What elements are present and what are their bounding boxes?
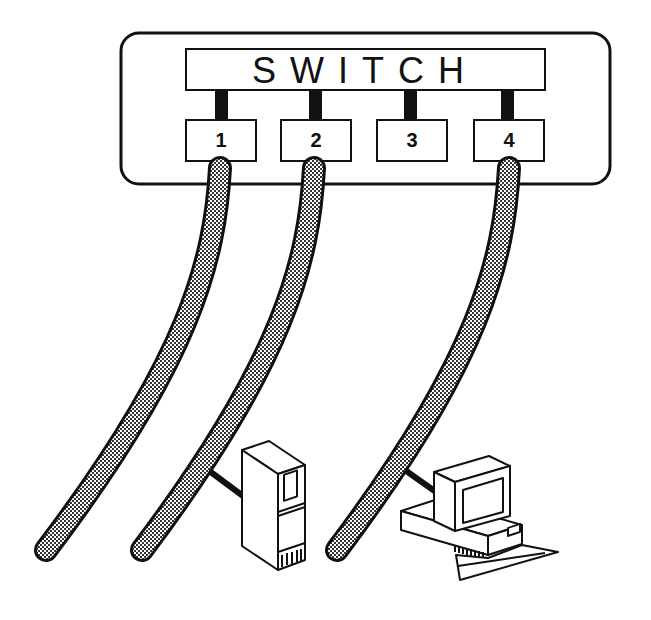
port-1: 1 [186,120,256,161]
port-2-label: 2 [310,129,321,151]
port-2: 2 [281,120,351,161]
port-1-connector [215,90,228,120]
port-4: 4 [474,120,544,161]
network-switch-diagram: SWITCH 1 2 3 4 [0,0,651,620]
port-3-label: 3 [406,129,417,151]
desktop-computer-icon [401,456,558,580]
server-link [208,470,243,496]
server-tower-icon [242,441,305,570]
desktop-link [402,468,436,492]
port-2-connector [309,90,322,120]
port-4-connector [501,90,514,120]
port-4-label: 4 [503,129,515,151]
port-3-connector [404,90,417,120]
switch-device: SWITCH 1 2 3 4 [121,33,610,184]
switch-label: SWITCH [252,50,478,91]
port-1-label: 1 [215,129,226,151]
port-3: 3 [377,120,447,161]
